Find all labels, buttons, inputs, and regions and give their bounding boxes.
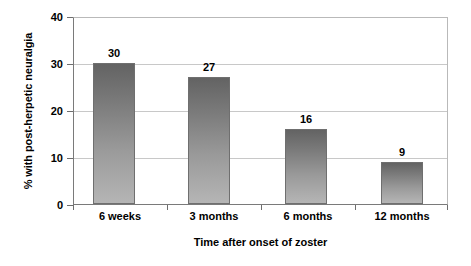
bar-value-3-months: 27 [167,61,251,73]
bar-value-6-months: 16 [264,113,348,125]
bar-12-months[interactable] [381,162,423,204]
x-axis-title: Time after onset of zoster [73,236,448,248]
y-tick-label-10: 10 [28,153,63,164]
bar-value-12-months: 9 [360,146,444,158]
x-tick-label-6-months: 6 months [261,210,355,222]
x-tick-label-3-months: 3 months [167,210,261,222]
bar-value-6-weeks: 30 [72,47,156,59]
y-tick-label-30: 30 [28,59,63,70]
y-tick-label-40: 40 [28,12,63,23]
y-tick-label-20: 20 [28,106,63,117]
bar-6-weeks[interactable] [93,63,135,204]
bar-3-months[interactable] [188,77,230,204]
x-tick-label-6-weeks: 6 weeks [73,210,167,222]
plot-area [73,17,448,205]
y-tick-label-0: 0 [28,200,63,211]
bar-6-months[interactable] [285,129,327,204]
bar-chart: % with post-herpetic neuralgia 40 30 20 … [0,0,471,266]
x-tick-label-12-months: 12 months [355,210,449,222]
